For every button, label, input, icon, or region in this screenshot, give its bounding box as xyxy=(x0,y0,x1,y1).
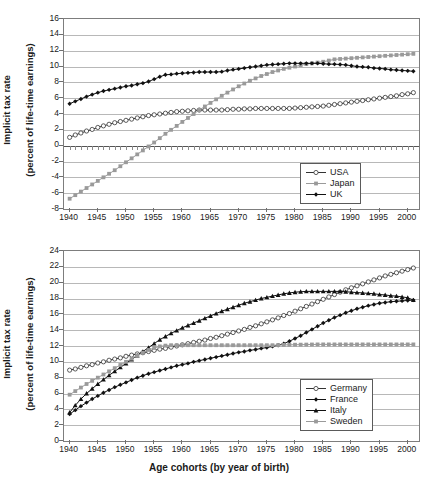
y-tick-mark xyxy=(59,266,63,267)
y-tick-mark xyxy=(59,161,63,162)
legend-label: UK xyxy=(327,189,343,200)
legend-label: Sweden xyxy=(327,416,363,427)
x-tick-mark xyxy=(97,208,98,212)
x-tick-mark xyxy=(407,208,408,212)
y-tick-mark xyxy=(59,424,63,425)
legend-marker-icon xyxy=(305,383,327,394)
x-tick-label: 2000 xyxy=(390,445,424,454)
y-tick-label: 14 xyxy=(33,29,59,38)
x-tick-mark xyxy=(69,208,70,212)
x-tick-mark xyxy=(238,440,239,444)
y-tick-label: 4 xyxy=(33,109,59,118)
y-tick-label: 6 xyxy=(33,388,59,397)
y-tick-label: 12 xyxy=(33,341,59,350)
y-tick-label: 16 xyxy=(33,309,59,318)
y-tick-label: 16 xyxy=(33,14,59,23)
x-tick-mark xyxy=(294,208,295,212)
legend-label: Germany xyxy=(327,383,367,394)
y-tick-label: 4 xyxy=(33,404,59,413)
legend-item-sweden[interactable]: Sweden xyxy=(305,416,367,427)
y-tick-mark xyxy=(59,113,63,114)
y-tick-mark xyxy=(59,81,63,82)
y-tick-label: 2 xyxy=(33,124,59,133)
legend-marker-icon xyxy=(305,178,327,189)
y-tick-mark xyxy=(59,97,63,98)
y-tick-mark xyxy=(59,18,63,19)
x-tick-mark xyxy=(125,440,126,444)
x-tick-mark xyxy=(181,208,182,212)
y-tick-label: 8 xyxy=(33,372,59,381)
y-tick-label: 24 xyxy=(33,246,59,255)
x-tick-mark xyxy=(322,208,323,212)
y-tick-mark xyxy=(59,176,63,177)
x-tick-mark xyxy=(69,440,70,444)
legend-item-usa[interactable]: USA xyxy=(305,167,355,178)
legend-item-uk[interactable]: UK xyxy=(305,189,355,200)
legend-marker-icon xyxy=(305,405,327,416)
x-axis-title: Age cohorts (by year of birth) xyxy=(0,462,438,473)
y-tick-label: 22 xyxy=(33,261,59,270)
y-tick-label: 10 xyxy=(33,356,59,365)
legend-item-japan[interactable]: Japan xyxy=(305,178,355,189)
y-axis-title-bottom: Implicit tax rate (percent of life-time … xyxy=(6,264,30,424)
legend-item-germany[interactable]: Germany xyxy=(305,383,367,394)
y-tick-mark xyxy=(59,50,63,51)
y-tick-label: -6 xyxy=(33,188,59,197)
legend-label: Italy xyxy=(327,405,347,416)
plot-area-top xyxy=(63,18,420,210)
x-tick-mark xyxy=(379,208,380,212)
legend-marker-icon xyxy=(305,416,327,427)
legend-label: USA xyxy=(327,167,349,178)
x-tick-mark xyxy=(350,440,351,444)
y-axis-title-line1: Implicit tax rate xyxy=(1,43,13,177)
y-axis-title-top: Implicit tax rate (percent of life-time … xyxy=(6,30,30,190)
y-tick-mark xyxy=(59,34,63,35)
y-tick-mark xyxy=(59,313,63,314)
x-tick-mark xyxy=(266,440,267,444)
y-tick-mark xyxy=(59,145,63,146)
y-tick-mark xyxy=(59,298,63,299)
y-tick-label: 8 xyxy=(33,77,59,86)
y-tick-mark xyxy=(59,192,63,193)
legend: GermanyFranceItalySweden xyxy=(300,379,373,431)
y-tick-mark xyxy=(59,129,63,130)
x-tick-mark xyxy=(238,208,239,212)
x-tick-mark xyxy=(407,440,408,444)
series-germany xyxy=(68,266,416,372)
y-tick-label: 12 xyxy=(33,45,59,54)
x-tick-mark xyxy=(181,440,182,444)
legend-item-italy[interactable]: Italy xyxy=(305,405,367,416)
y-tick-label: 14 xyxy=(33,325,59,334)
y-tick-mark xyxy=(59,329,63,330)
series-layer xyxy=(64,19,419,209)
x-tick-label: 2000 xyxy=(390,213,424,222)
x-tick-mark xyxy=(210,208,211,212)
y-tick-mark xyxy=(59,408,63,409)
chart-bottom: Implicit tax rate (percent of life-time … xyxy=(0,240,438,487)
x-tick-mark xyxy=(125,208,126,212)
legend-marker-icon xyxy=(305,189,327,200)
y-tick-label: 2 xyxy=(33,420,59,429)
y-tick-mark xyxy=(59,250,63,251)
x-tick-mark xyxy=(153,440,154,444)
legend: USAJapanUK xyxy=(300,163,361,204)
y-tick-label: 0 xyxy=(33,140,59,149)
x-tick-mark xyxy=(350,208,351,212)
y-tick-label: 0 xyxy=(33,436,59,445)
y-tick-mark xyxy=(59,393,63,394)
y-tick-mark xyxy=(59,66,63,67)
y-tick-mark xyxy=(59,377,63,378)
series-japan xyxy=(68,52,416,201)
y-tick-mark xyxy=(59,208,63,209)
x-tick-mark xyxy=(153,208,154,212)
x-tick-mark xyxy=(266,208,267,212)
x-tick-mark xyxy=(379,440,380,444)
legend-label: Japan xyxy=(327,178,355,189)
y-tick-mark xyxy=(59,345,63,346)
legend-item-france[interactable]: France xyxy=(305,394,367,405)
y-tick-label: -2 xyxy=(33,156,59,165)
x-tick-mark xyxy=(210,440,211,444)
y-tick-label: 18 xyxy=(33,293,59,302)
x-tick-mark xyxy=(97,440,98,444)
y-tick-mark xyxy=(59,440,63,441)
